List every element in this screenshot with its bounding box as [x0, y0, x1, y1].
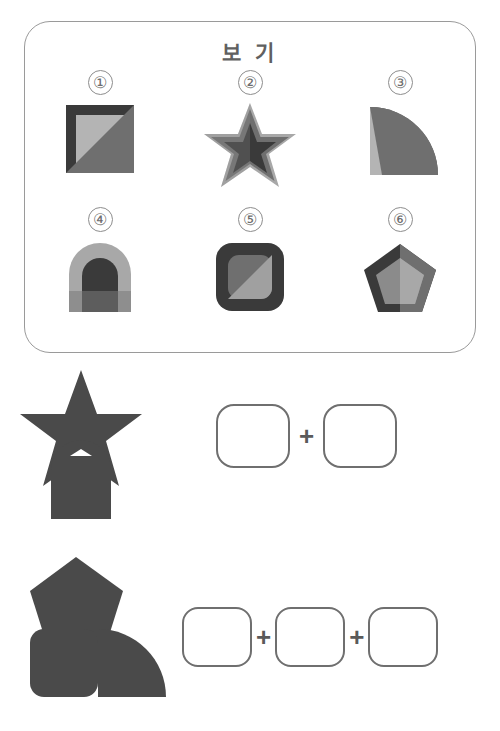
shape-quarter-circle — [352, 101, 448, 193]
shape-layered-pentagon — [352, 238, 448, 330]
option-number-2: ② — [238, 70, 263, 95]
options-panel: 보 기 ① ② — [24, 21, 476, 353]
shape-rounded-square — [202, 238, 298, 330]
answer-slot-2-a[interactable] — [182, 607, 252, 667]
arch-svg — [52, 238, 148, 330]
option-number-5: ⑤ — [238, 207, 263, 232]
plus-separator: + — [252, 624, 275, 650]
options-grid: ① ② ③ — [25, 70, 475, 344]
quarter-circle-svg — [352, 101, 448, 193]
shape-square-with-diagonal-split — [52, 101, 148, 193]
answer-slot-1-a[interactable] — [216, 404, 290, 468]
option-number-6: ⑥ — [388, 207, 413, 232]
plus-separator: + — [290, 423, 323, 449]
arch-inner-base — [82, 291, 118, 312]
question-2: + + — [0, 545, 500, 710]
answer-slot-2-b[interactable] — [275, 607, 345, 667]
shape-arch — [52, 238, 148, 330]
square-diagonal-svg — [52, 101, 148, 193]
option-item-5[interactable]: ⑤ — [175, 207, 325, 344]
option-item-1[interactable]: ① — [25, 70, 175, 207]
option-item-6[interactable]: ⑥ — [325, 207, 475, 344]
option-item-3[interactable]: ③ — [325, 70, 475, 207]
option-item-4[interactable]: ④ — [25, 207, 175, 344]
layered-star-svg — [202, 101, 298, 193]
option-number-1: ① — [88, 70, 113, 95]
star-arch-silhouette-svg — [0, 368, 215, 533]
plus-separator: + — [345, 624, 368, 650]
option-number-3: ③ — [388, 70, 413, 95]
page-title: 보 기 — [25, 36, 475, 66]
question-1: + — [0, 368, 500, 533]
star-left-shade — [204, 103, 250, 187]
quarter-circle-body — [370, 107, 438, 175]
arch-left-base — [69, 291, 82, 312]
arch-right-base — [118, 291, 131, 312]
option-number-4: ④ — [88, 207, 113, 232]
figure-star-over-arch-silhouette — [0, 368, 215, 533]
answer-slot-1-b[interactable] — [323, 404, 397, 468]
rounded-square-svg — [202, 238, 298, 330]
answer-slots-question-1: + — [216, 404, 397, 468]
layered-pentagon-svg — [352, 238, 448, 330]
option-item-2[interactable]: ② — [175, 70, 325, 207]
silhouette-quarter-circle — [98, 629, 166, 697]
answer-slots-question-2: + + — [182, 607, 438, 667]
shape-layered-star — [202, 101, 298, 193]
answer-slot-2-c[interactable] — [368, 607, 438, 667]
silhouette-square — [30, 629, 98, 697]
